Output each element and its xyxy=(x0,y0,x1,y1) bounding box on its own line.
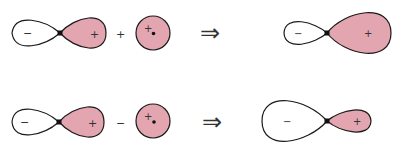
s-orbital: + xyxy=(136,16,170,50)
orbital-hybridization-diagram: − + + + ⇒ − + − + − + xyxy=(0,0,402,150)
p-orbital: − + xyxy=(12,107,104,137)
neg-label: − xyxy=(20,116,29,129)
negative-lobe xyxy=(12,20,60,46)
hybrid-orbital: − + xyxy=(262,101,371,142)
s-label: + xyxy=(144,111,152,122)
pos-label: + xyxy=(90,28,99,41)
nucleus xyxy=(325,119,330,124)
positive-lobe xyxy=(327,110,371,132)
nucleus xyxy=(58,31,63,36)
pos-label: + xyxy=(353,116,361,127)
hybrid-orbital: − + xyxy=(284,13,391,54)
positive-lobe xyxy=(59,107,104,137)
pos-label: + xyxy=(364,28,372,39)
p-orbital: − + xyxy=(12,18,106,48)
implies-arrow: ⇒ xyxy=(200,19,220,47)
nucleus-dot xyxy=(152,120,156,124)
nucleus-dot xyxy=(152,32,156,36)
positive-lobe xyxy=(327,13,391,54)
negative-lobe xyxy=(284,22,327,45)
neg-label: − xyxy=(283,116,291,127)
row-bonding: − + + + ⇒ − + xyxy=(12,13,391,54)
s-orbital: + xyxy=(136,104,170,138)
operator-minus: − xyxy=(116,117,125,130)
implies-arrow: ⇒ xyxy=(202,108,222,136)
neg-label: − xyxy=(23,27,32,40)
operator-plus: + xyxy=(116,28,125,41)
nucleus xyxy=(57,120,62,125)
neg-label: − xyxy=(294,28,302,39)
pos-label: + xyxy=(88,117,97,130)
row-antibonding: − + − + ⇒ − + xyxy=(12,101,371,142)
s-label: + xyxy=(144,23,152,34)
nucleus xyxy=(325,31,330,36)
negative-lobe xyxy=(262,101,327,142)
